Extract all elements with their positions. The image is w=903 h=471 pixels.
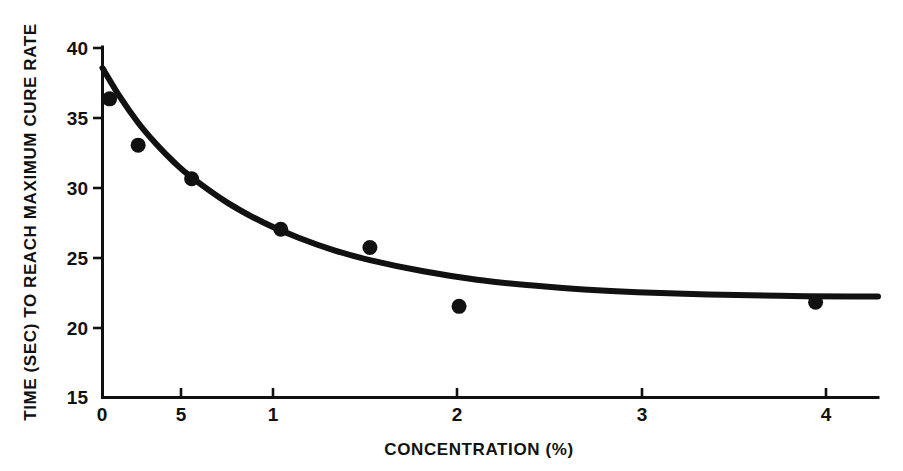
x-tick-label-0-5: 5 xyxy=(176,404,187,425)
data-point xyxy=(131,138,146,153)
fitted-curve xyxy=(103,68,879,297)
y-tick-label-25: 25 xyxy=(67,248,89,269)
x-axis-title: CONCENTRATION (%) xyxy=(384,440,573,459)
y-tick-label-30: 30 xyxy=(67,178,88,199)
data-point xyxy=(808,295,823,310)
chart-figure: 40 35 30 25 20 15 0 5 1 2 3 4 CONCENTRAT… xyxy=(0,0,903,471)
y-tick-label-15: 15 xyxy=(67,387,89,408)
data-point xyxy=(102,91,117,106)
y-tick-label-35: 35 xyxy=(67,108,89,129)
data-point xyxy=(362,240,377,255)
data-point xyxy=(184,171,199,186)
y-tick-label-40: 40 xyxy=(67,38,88,59)
chart-plot-area: 40 35 30 25 20 15 0 5 1 2 3 4 CONCENTRAT… xyxy=(0,0,903,471)
x-tick-label-2: 2 xyxy=(452,404,463,425)
x-tick-label-0: 0 xyxy=(97,404,108,425)
data-point xyxy=(273,222,288,237)
data-point xyxy=(452,299,467,314)
x-tick-label-3: 3 xyxy=(637,404,648,425)
x-axis-tick-labels: 0 5 1 2 3 4 xyxy=(97,404,832,425)
y-tick-label-20: 20 xyxy=(67,318,88,339)
y-axis-tick-labels: 40 35 30 25 20 15 xyxy=(67,38,89,408)
y-axis-title: TIME (SEC) TO REACH MAXIMUM CURE RATE xyxy=(21,23,40,420)
x-tick-label-4: 4 xyxy=(821,404,832,425)
x-tick-label-1: 1 xyxy=(268,404,279,425)
